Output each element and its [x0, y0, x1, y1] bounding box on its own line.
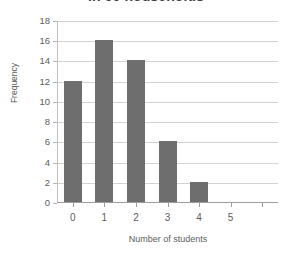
y-axis-title: Frequency — [9, 47, 19, 119]
x-axis-tick-mark — [199, 203, 200, 207]
x-axis-tick-mark — [136, 203, 137, 207]
x-axis-line — [57, 202, 278, 203]
y-axis-tick-label: 12 — [20, 77, 50, 87]
bar — [64, 81, 82, 202]
bar — [95, 40, 113, 202]
chart-title: in 50 households — [0, 0, 292, 4]
gridline — [57, 82, 278, 83]
gridline — [57, 102, 278, 103]
x-axis-tick-mark — [73, 203, 74, 207]
gridline — [57, 21, 278, 22]
x-axis-tick-mark — [104, 203, 105, 207]
y-axis-tick-label: 8 — [20, 117, 50, 127]
y-axis-tick-mark — [53, 203, 57, 204]
gridline — [57, 41, 278, 42]
y-axis-tick-label: 14 — [20, 57, 50, 67]
y-axis-tick-label: 18 — [20, 16, 50, 26]
y-axis-line — [57, 21, 58, 203]
y-axis-tick-label: 10 — [20, 97, 50, 107]
bar — [127, 60, 145, 202]
x-axis-tick-label: 5 — [213, 213, 249, 223]
y-axis-tick-label: 4 — [20, 158, 50, 168]
y-axis-tick-label: 6 — [20, 138, 50, 148]
bar — [190, 182, 208, 202]
x-axis-tick-mark — [262, 203, 263, 207]
y-axis-tick-label: 2 — [20, 178, 50, 188]
bar — [159, 141, 177, 202]
gridline — [57, 122, 278, 123]
y-axis-tick-label: 0 — [20, 198, 50, 208]
gridline — [57, 61, 278, 62]
bar-chart-figure: in 50 households Frequency 0246810121416… — [0, 0, 292, 258]
x-axis-tick-mark — [168, 203, 169, 207]
x-axis-tick-mark — [231, 203, 232, 207]
y-axis-tick-label: 16 — [20, 36, 50, 46]
plot-area: 024681012141618 012345 — [57, 21, 278, 203]
x-axis-title: Number of students — [56, 234, 280, 244]
